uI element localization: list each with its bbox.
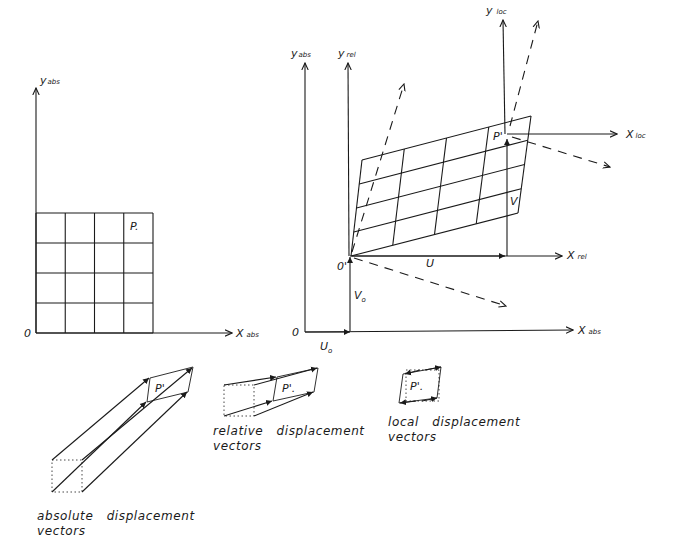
local-caption-line2: vectors (388, 430, 437, 444)
local-caption-line1: local displacement (388, 415, 521, 429)
abs-vector-top-right (82, 368, 192, 460)
abs-point-label: P' (155, 382, 165, 395)
deformed-grid-line-v (359, 140, 528, 184)
local-vector-bottom-left (400, 401, 416, 403)
local-point-label: P'. (410, 380, 423, 393)
left-origin-label: 0 (24, 327, 31, 340)
y-loc-axis (503, 20, 505, 134)
u0-label: Uo (320, 340, 332, 355)
v-label: V (510, 195, 519, 208)
inset-local-displacement: P'. local displacement vectors (388, 367, 521, 444)
point-p-prime-label: P' (493, 130, 503, 143)
dashed-rotated-y-loc (510, 21, 538, 126)
u-label: U (426, 257, 434, 270)
right-y-abs-label: yabs (290, 47, 311, 60)
y-loc-label: yloc (485, 4, 507, 17)
local-vector-top-left (405, 370, 420, 374)
inset-absolute-displacement: P' absolute displacement vectors (37, 367, 195, 538)
left-point-p-label: P. (130, 220, 139, 233)
left-panel-absolute-frame: 0 Xabs yabs P. (24, 74, 259, 340)
origin-rel-label: 0' (337, 260, 347, 273)
right-panel-frames: 0 Xabs yabs Uo Vo yrel Xrel 0' U V yloc … (290, 4, 646, 355)
inset-relative-displacement: P'. relative displacement vectors (213, 368, 365, 453)
v0-label: Vo (354, 289, 366, 304)
rel-caption-line1: relative displacement (213, 424, 365, 438)
displacement-diagram: 0 Xabs yabs P. 0 Xabs yabs Uo Vo yrel Xr… (0, 0, 673, 538)
deformed-grid-line-v (357, 165, 525, 209)
y-rel-axis (348, 63, 349, 256)
right-origin-label: 0 (292, 326, 299, 339)
right-x-abs-label: Xabs (577, 324, 601, 337)
abs-vector-bottom-right (82, 392, 187, 492)
abs-caption-line1: absolute displacement (37, 509, 195, 523)
deformed-grid-line-v (351, 213, 518, 256)
x-rel-label: Xrel (566, 249, 587, 262)
abs-vector-bottom-left (52, 402, 146, 492)
left-x-abs-label: Xabs (235, 327, 259, 340)
rel-point-label: P'. (282, 382, 295, 395)
y-rel-label: yrel (337, 47, 356, 60)
abs-vector-top-left (52, 378, 149, 460)
abs-caption-line2: vectors (37, 524, 86, 538)
dashed-rotated-y-from-origin (352, 84, 404, 252)
rel-caption-line2: vectors (213, 439, 262, 453)
rel-deformed-element (273, 368, 318, 401)
rel-vector-bottom-left (224, 401, 272, 416)
deformed-grid-line-v (354, 189, 522, 232)
x-loc-label: Xloc (625, 128, 646, 141)
deformed-grid (351, 116, 531, 256)
left-y-abs-label: yabs (39, 74, 60, 87)
